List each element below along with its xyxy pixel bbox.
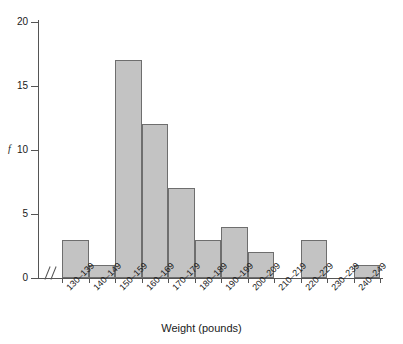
y-tick-20 bbox=[31, 22, 38, 23]
x-tick bbox=[168, 278, 169, 283]
x-tick bbox=[62, 278, 63, 283]
x-tick bbox=[142, 278, 143, 283]
y-tick-label-5: 5 bbox=[4, 209, 28, 219]
x-tick bbox=[89, 278, 90, 283]
x-tick bbox=[248, 278, 249, 283]
x-tick bbox=[327, 278, 328, 283]
histogram-bar bbox=[115, 60, 142, 278]
x-tick bbox=[301, 278, 302, 283]
x-tick bbox=[195, 278, 196, 283]
y-tick-label-20: 20 bbox=[4, 17, 28, 27]
x-tick bbox=[354, 278, 355, 283]
histogram-figure: f 05101520 130–139140–149150–159160–1691… bbox=[0, 0, 403, 344]
y-tick-5 bbox=[31, 214, 38, 215]
y-tick-0 bbox=[31, 278, 38, 279]
plot-area bbox=[38, 22, 383, 278]
x-tick bbox=[380, 278, 381, 283]
y-tick-label-15: 15 bbox=[4, 81, 28, 91]
x-tick bbox=[115, 278, 116, 283]
histogram-bar bbox=[142, 124, 169, 278]
x-tick bbox=[274, 278, 275, 283]
x-axis-title: Weight (pounds) bbox=[0, 322, 403, 334]
y-tick-15 bbox=[31, 86, 38, 87]
y-tick-label-0: 0 bbox=[4, 273, 28, 283]
y-tick-label-10: 10 bbox=[4, 145, 28, 155]
y-tick-10 bbox=[31, 150, 38, 151]
x-tick bbox=[221, 278, 222, 283]
